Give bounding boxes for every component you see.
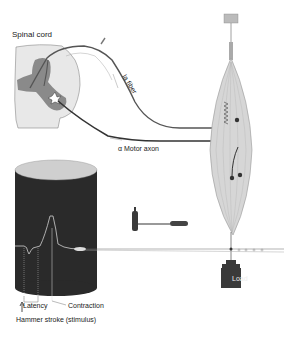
stretch-reflex-diagram: Spinal cord Ia fiber α Motor axon Latenc… <box>0 0 284 342</box>
load-weight <box>221 260 241 288</box>
muscle <box>210 14 252 262</box>
kymograph-drum <box>15 160 97 301</box>
contraction-label: Contraction <box>68 302 104 309</box>
lever[interactable] <box>74 247 284 252</box>
spinal-cord-label: Spinal cord <box>12 30 52 39</box>
latency-label: Latency <box>23 302 48 309</box>
reflex-hammer[interactable] <box>132 207 188 231</box>
hammer-stroke-label: Hammer stroke (stimulus) <box>16 316 96 323</box>
load-label: Load <box>232 275 248 282</box>
motor-axon-label: α Motor axon <box>118 145 159 152</box>
anchor <box>224 14 238 23</box>
